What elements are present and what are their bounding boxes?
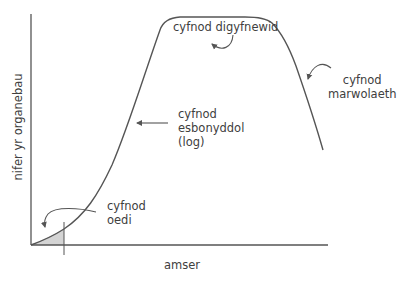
stationary-arrow-icon [212, 35, 233, 48]
log-phase-label: cyfnod esbonyddol (log) [178, 107, 244, 149]
stationary-phase-label: cyfnod digyfnewid [173, 20, 278, 34]
y-axis-label: nifer yr organebau [11, 73, 25, 180]
x-axis-label: amser [164, 258, 200, 272]
lag-phase-label: cyfnod oedi [107, 199, 146, 227]
death-phase-label: cyfnod marwolaeth [328, 73, 397, 101]
growth-curve [31, 17, 323, 245]
